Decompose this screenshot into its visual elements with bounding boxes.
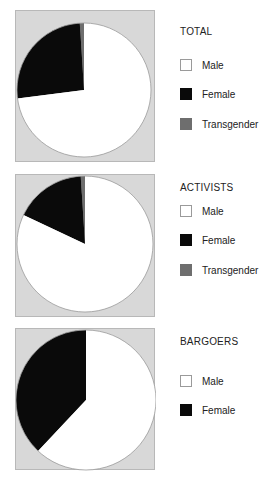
legend-item-transgender: Transgender	[180, 263, 258, 277]
pie-panel-activists	[15, 174, 155, 317]
pie-panel-total	[15, 10, 155, 162]
legend-title: ACTIVISTS	[180, 182, 233, 193]
legend-label: Male	[202, 60, 224, 71]
pie-chart-total	[16, 11, 156, 163]
legend-title: BARGOERS	[180, 336, 238, 347]
legend-label: Transgender	[202, 265, 258, 276]
legend-item-transgender: Transgender	[180, 117, 258, 131]
legend-item-male: Male	[180, 204, 224, 218]
pie-panel-bargoers	[15, 328, 155, 470]
female-swatch	[180, 234, 192, 246]
legend-label: Female	[202, 235, 235, 246]
legend-label: Male	[202, 376, 224, 387]
legend-title: TOTAL	[180, 26, 212, 37]
legend-label: Male	[202, 206, 224, 217]
male-swatch	[180, 375, 192, 387]
female-swatch	[180, 88, 192, 100]
legend-label: Transgender	[202, 119, 258, 130]
legend-item-female: Female	[180, 87, 235, 101]
female-swatch	[180, 404, 192, 416]
pie-chart-activists	[16, 175, 156, 318]
legend-label: Female	[202, 405, 235, 416]
legend-item-female: Female	[180, 403, 235, 417]
male-swatch	[180, 59, 192, 71]
transgender-swatch	[180, 264, 192, 276]
pie-chart-bargoers	[16, 329, 156, 471]
transgender-swatch	[180, 118, 192, 130]
legend-item-male: Male	[180, 58, 224, 72]
legend-item-male: Male	[180, 374, 224, 388]
pie-slice-female	[17, 23, 84, 98]
legend-item-female: Female	[180, 233, 235, 247]
male-swatch	[180, 205, 192, 217]
legend-label: Female	[202, 89, 235, 100]
